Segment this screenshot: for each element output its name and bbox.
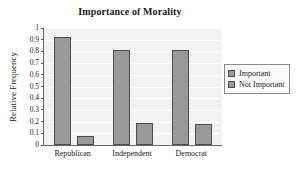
legend-label: Not Important <box>239 80 285 89</box>
bar-group <box>44 28 103 145</box>
bar <box>136 123 153 145</box>
y-axis-tick-label: 0.2 <box>30 118 41 126</box>
y-axis-tick-label: 0.5 <box>30 83 41 91</box>
y-axis-tick-label: 0.9 <box>30 36 41 44</box>
x-axis-tick-labels: RepublicanIndependentDemocrat <box>43 149 222 163</box>
y-axis-tick-label: 0.4 <box>30 94 41 102</box>
bar <box>113 50 130 145</box>
chart-title: Importance of Morality <box>30 6 230 18</box>
bar-chart: Importance of Morality Relative Frequenc… <box>0 0 303 181</box>
bars-layer <box>44 28 222 145</box>
x-axis-tick-label: Democrat <box>162 149 221 159</box>
bar-group <box>103 28 162 145</box>
bar <box>54 37 71 145</box>
bar-group <box>163 28 222 145</box>
legend-item: Important <box>228 68 285 79</box>
x-axis-tick-label: Independent <box>102 149 161 159</box>
y-axis-title: Relative Frequency <box>8 52 18 122</box>
legend-label: Important <box>239 69 271 78</box>
plot-area: 10.90.80.70.60.50.40.30.20.10 <box>43 28 222 146</box>
bar <box>195 124 212 145</box>
chart-legend: ImportantNot Important <box>224 64 290 94</box>
y-axis-title-container: Relative Frequency <box>6 28 20 146</box>
legend-swatch-icon <box>228 81 235 88</box>
y-axis-tick-label: 0.7 <box>30 59 41 67</box>
x-axis-tick-label: Republican <box>43 149 102 159</box>
bar <box>77 136 94 145</box>
y-axis-tick-label: 0.3 <box>30 106 41 114</box>
y-axis-tick-label: 0.6 <box>30 71 41 79</box>
legend-item: Not Important <box>228 79 285 90</box>
bar <box>172 50 189 145</box>
y-axis-tick-label: 0.8 <box>30 47 41 55</box>
legend-swatch-icon <box>228 70 235 77</box>
y-axis-tick-label: 0.1 <box>30 129 41 137</box>
